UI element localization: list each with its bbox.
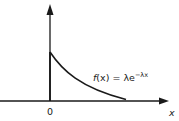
y-axis-arrow-icon: [47, 4, 54, 15]
x-axis-arrow-icon: [159, 98, 169, 105]
function-label: f(x) = λe−λx: [93, 71, 148, 83]
origin-label: 0: [47, 106, 53, 117]
function-exponent: −λx: [135, 71, 148, 79]
exponential-density-diagram: f(x) = λe−λx 0 x: [0, 0, 179, 121]
x-axis-label: x: [168, 107, 175, 118]
